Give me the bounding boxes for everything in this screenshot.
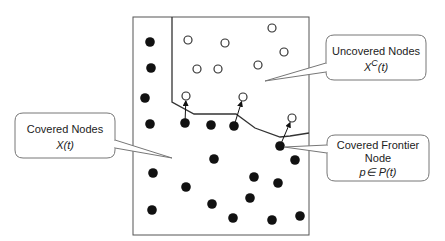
uncovered-node xyxy=(268,24,276,32)
covered-node xyxy=(229,121,239,131)
callout-uncovered-label: Uncovered Nodes xyxy=(332,45,421,57)
covered-node xyxy=(148,168,158,178)
callout-frontier-label: Covered Frontier xyxy=(337,139,420,151)
covered-node xyxy=(140,93,150,103)
covered-node xyxy=(181,182,191,192)
callout-covered-label: Covered Nodes xyxy=(27,123,104,135)
uncovered-nodes xyxy=(182,24,296,122)
covered-node xyxy=(275,141,285,151)
callout-uncovered-nodes: Uncovered Nodes XC(t) xyxy=(265,35,426,81)
covered-node xyxy=(290,155,300,165)
covered-node xyxy=(146,63,156,73)
covered-node xyxy=(207,199,217,209)
covered-node xyxy=(145,119,155,129)
callout-frontier-math: p∈ P(t) xyxy=(359,166,397,178)
uncovered-node xyxy=(288,114,296,122)
callout-covered-math: X(t) xyxy=(55,139,74,151)
uncovered-node xyxy=(280,48,288,56)
uncovered-node xyxy=(221,39,229,47)
uncovered-node xyxy=(239,93,247,101)
covered-node xyxy=(267,215,277,225)
callout-frontier-node: Covered Frontier Node p∈ P(t) xyxy=(284,135,429,181)
covered-node xyxy=(206,120,216,130)
covered-node xyxy=(245,193,255,203)
covered-node xyxy=(147,205,157,215)
covered-node xyxy=(273,178,283,188)
uncovered-node xyxy=(193,65,201,73)
callout-frontier-label-2: Node xyxy=(365,152,391,164)
covered-node xyxy=(228,213,238,223)
uncovered-node xyxy=(184,36,192,44)
covered-node xyxy=(180,118,190,128)
covered-node xyxy=(295,211,305,221)
uncovered-node xyxy=(182,92,190,100)
uncovered-node xyxy=(214,65,222,73)
uncovered-node xyxy=(254,61,262,69)
covered-node xyxy=(249,172,259,182)
coverage-diagram: Uncovered Nodes XC(t) Covered Nodes X(t)… xyxy=(0,0,445,241)
covered-node xyxy=(145,37,155,47)
covered-node xyxy=(209,154,219,164)
covered-nodes xyxy=(140,37,305,225)
